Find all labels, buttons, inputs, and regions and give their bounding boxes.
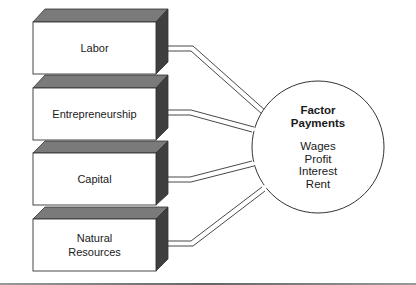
factor-box-capital (33, 141, 168, 205)
factor-payments-circle (252, 81, 384, 213)
box-top-face (33, 207, 168, 219)
factor-box-entrepreneurship (33, 75, 168, 140)
box-top-face (33, 75, 168, 88)
connectors (168, 46, 266, 246)
factor-box-natural-resources (33, 207, 168, 271)
box-front-face (33, 22, 156, 74)
connector-natural-resources (168, 187, 265, 246)
factor-box-labor (33, 9, 168, 74)
box-front-face (33, 88, 156, 140)
box-front-face (33, 153, 156, 205)
box-top-face (33, 9, 168, 22)
connector-entrepreneurship (168, 110, 254, 132)
connector-capital (168, 161, 254, 182)
connector-labor (168, 46, 266, 114)
factor-payments-diagram (0, 0, 416, 285)
box-top-face (33, 141, 168, 153)
box-front-face (33, 219, 156, 271)
